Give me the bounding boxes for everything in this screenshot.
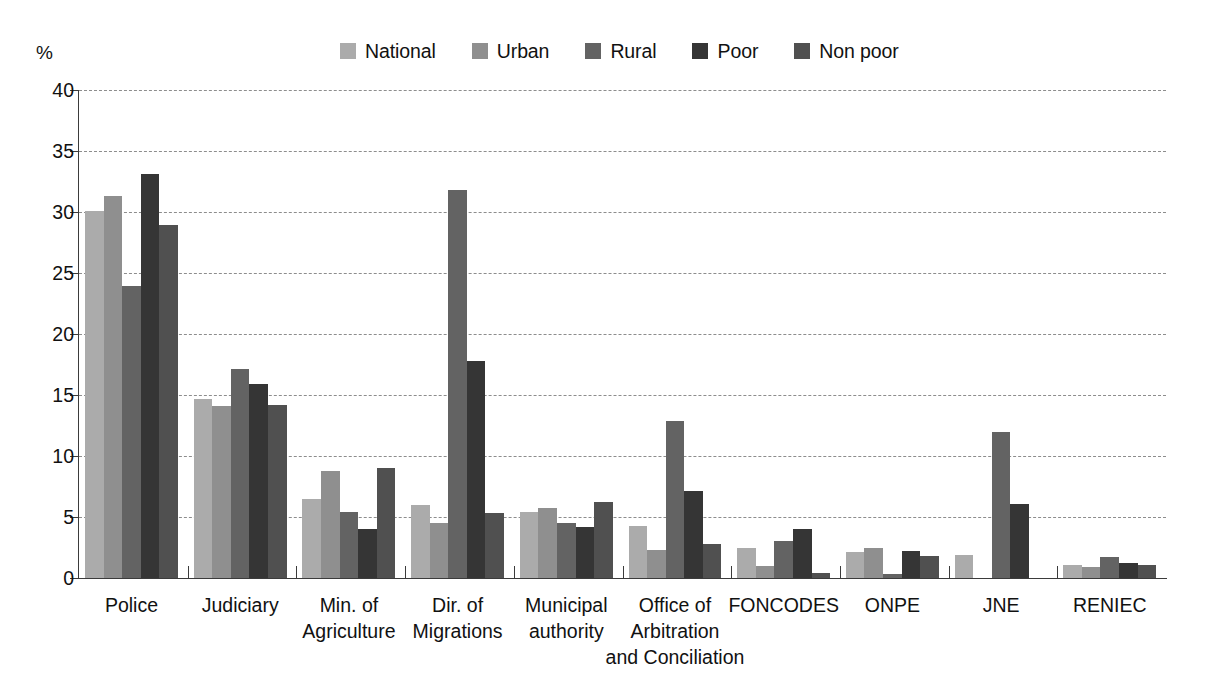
bar (520, 512, 539, 578)
x-axis-category-label-line: and Conciliation (606, 644, 745, 670)
bar-group (731, 90, 840, 578)
bar (992, 432, 1011, 578)
x-axis-category-label: FONCODES (728, 592, 839, 618)
bar (666, 421, 685, 578)
bar (793, 529, 812, 578)
bar (268, 405, 287, 578)
bar (629, 526, 648, 578)
legend-label: National (365, 40, 436, 63)
legend-swatch-icon (692, 43, 708, 59)
x-axis-category-label-line: RENIEC (1073, 592, 1147, 618)
bar (902, 551, 921, 578)
x-axis-category-label: Municipalauthority (525, 592, 607, 644)
bar (249, 384, 268, 578)
bar (141, 174, 160, 578)
x-axis-category-label-line: Municipal (525, 592, 607, 618)
x-axis-category-label-line: FONCODES (728, 592, 839, 618)
bar-group (623, 90, 732, 578)
bar (485, 513, 504, 578)
x-axis-category-label-line: Office of (606, 592, 745, 618)
bar-group (840, 90, 949, 578)
x-axis-category-label-line: Min. of (302, 592, 395, 618)
bars-layer (79, 90, 1166, 578)
bar (846, 552, 865, 578)
bar (467, 361, 486, 578)
legend-entry: Poor (692, 40, 758, 63)
bar (756, 566, 775, 578)
legend-entry: National (340, 40, 436, 63)
bar (955, 555, 974, 578)
y-axis-tick-label: 30 (30, 201, 74, 224)
bar-group (405, 90, 514, 578)
legend-entry: Urban (472, 40, 550, 63)
bar (864, 548, 883, 579)
x-axis-category-label-line: ONPE (865, 592, 920, 618)
y-axis-tick-label: 35 (30, 140, 74, 163)
bar (594, 502, 613, 578)
bar (85, 211, 104, 578)
y-axis-tick-label: 25 (30, 262, 74, 285)
bar (231, 369, 250, 578)
bar (774, 541, 793, 578)
legend-label: Poor (717, 40, 758, 63)
plot-area: 0510152025303540 (79, 90, 1166, 578)
x-axis-category-label-line: Judiciary (202, 592, 279, 618)
x-axis-category-label-line: authority (525, 618, 607, 644)
y-axis-tick-label: 15 (30, 384, 74, 407)
y-axis-line (78, 90, 79, 579)
x-axis-category-label-line: Arbitration (606, 618, 745, 644)
x-axis-category-label: Police (105, 592, 158, 618)
legend-swatch-icon (794, 43, 810, 59)
bar (159, 225, 178, 578)
bar (302, 499, 321, 578)
bar (321, 471, 340, 578)
bar (194, 399, 213, 578)
bar (557, 523, 576, 578)
bar-group (79, 90, 188, 578)
chart-legend: NationalUrbanRuralPoorNon poor (340, 36, 935, 66)
x-axis-category-labels: PoliceJudiciaryMin. ofAgricultureDir. of… (79, 592, 1166, 692)
bar (576, 527, 595, 578)
bar (737, 548, 756, 579)
legend-swatch-icon (472, 43, 488, 59)
bar (104, 196, 123, 578)
x-axis-category-label-line: Agriculture (302, 618, 395, 644)
bar (920, 556, 939, 578)
bar (1138, 565, 1157, 578)
x-axis-category-label: Min. ofAgriculture (302, 592, 395, 644)
bar (377, 468, 396, 578)
legend-swatch-icon (585, 43, 601, 59)
x-axis-category-label-line: JNE (983, 592, 1020, 618)
x-axis-category-label: Judiciary (202, 592, 279, 618)
bar (538, 508, 557, 578)
y-axis-tick-label: 5 (30, 506, 74, 529)
x-axis-category-label: Dir. ofMigrations (413, 592, 503, 644)
x-axis-category-label-line: Police (105, 592, 158, 618)
bar (647, 550, 666, 578)
y-axis-unit-label: % (36, 42, 53, 64)
bar (1063, 565, 1082, 578)
bar (1082, 567, 1101, 578)
bar (1100, 557, 1119, 578)
bar (358, 529, 377, 578)
x-axis-category-label: Office ofArbitrationand Conciliation (606, 592, 745, 670)
bar-group (188, 90, 297, 578)
y-axis-tick-label: 20 (30, 323, 74, 346)
legend-label: Rural (610, 40, 656, 63)
bar-group (514, 90, 623, 578)
bar (411, 505, 430, 578)
legend-entry: Non poor (794, 40, 898, 63)
bar-group (296, 90, 405, 578)
x-axis-category-label: ONPE (865, 592, 920, 618)
y-axis-tick-label: 0 (30, 567, 74, 590)
legend-label: Non poor (819, 40, 898, 63)
bar (684, 491, 703, 578)
bar (340, 512, 359, 578)
bar (703, 544, 722, 578)
x-axis-line (78, 578, 1167, 579)
y-axis-tick-label: 10 (30, 445, 74, 468)
bar-chart: NationalUrbanRuralPoorNon poor % 0510152… (0, 0, 1209, 696)
x-axis-category-label-line: Migrations (413, 618, 503, 644)
bar (430, 523, 449, 578)
x-axis-category-label: JNE (983, 592, 1020, 618)
